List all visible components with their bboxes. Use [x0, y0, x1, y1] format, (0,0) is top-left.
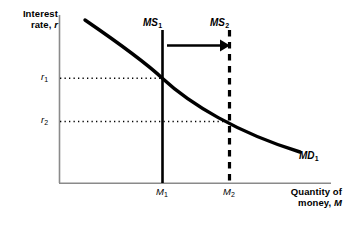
md1-label-sub: 1 [315, 155, 319, 162]
y-axis-title-line1: Interest [23, 8, 58, 19]
m1-text: M [156, 186, 164, 197]
r2-sub: 2 [44, 119, 48, 126]
ms2-label-sub: 2 [225, 22, 229, 29]
x-axis-title: Quantity of money, M [258, 186, 342, 208]
money-supply-1-label: MS1 [143, 17, 162, 29]
figure-canvas: Interest rate, r Quantity of money, M MS… [0, 0, 345, 226]
y-tick-label-r2: r2 [41, 114, 48, 125]
x-axis-title-line1: Quantity of [291, 186, 342, 197]
x-tick-label-m2: M2 [223, 186, 235, 197]
ms1-label-sub: 1 [158, 22, 162, 29]
ms2-label-text: MS [210, 17, 225, 28]
y-axis-title-line2: rate, [31, 19, 54, 30]
md1-label-text: MD [299, 150, 315, 161]
money-demand-1-label: MD1 [299, 150, 318, 162]
y-axis-title: Interest rate, r [10, 8, 58, 30]
money-supply-2-label: MS2 [210, 17, 229, 29]
ms1-label-text: MS [143, 17, 158, 28]
y-axis-title-variable: r [54, 19, 58, 30]
x-axis-title-line2: money, [298, 197, 334, 208]
m2-text: M [223, 186, 231, 197]
shift-arrow [167, 40, 230, 52]
x-tick-label-m1: M1 [156, 186, 168, 197]
y-tick-label-r1: r1 [41, 71, 48, 82]
x-axis-title-variable: M [334, 197, 342, 208]
money-demand-curve [85, 20, 300, 152]
m1-sub: 1 [164, 191, 168, 198]
r1-sub: 1 [44, 76, 48, 83]
m2-sub: 2 [231, 191, 235, 198]
